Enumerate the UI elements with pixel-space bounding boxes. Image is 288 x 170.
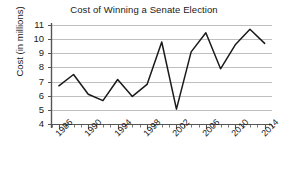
x-tick-label: 2014 [260,118,281,139]
x-tick-label: 2010 [230,118,251,139]
x-tick-label: 2006 [201,118,222,139]
x-tick-label: 1990 [83,118,104,139]
chart-container: Cost of Winning a Senate Election Cost (… [0,0,288,170]
x-tick-label: 1998 [142,118,163,139]
x-tick-label: 1994 [113,118,134,139]
x-axis-tick-labels: 19861990199419982002200620102014 [0,0,288,170]
x-tick-label: 1986 [54,118,75,139]
x-tick-label: 2002 [171,118,192,139]
